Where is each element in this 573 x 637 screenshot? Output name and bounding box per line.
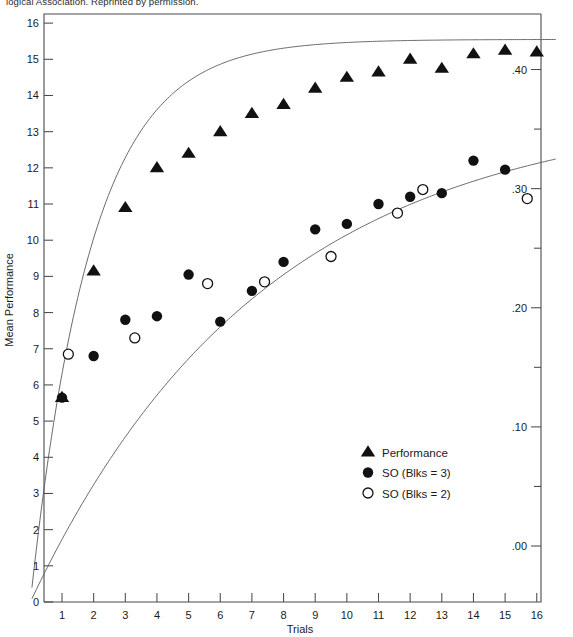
data-point-s1-3 bbox=[118, 201, 132, 212]
series-3-points bbox=[63, 185, 532, 360]
legend-marker-2 bbox=[363, 467, 373, 477]
axes-group bbox=[44, 14, 541, 602]
data-point-s3-8 bbox=[522, 194, 532, 204]
data-point-s2-8 bbox=[278, 257, 288, 267]
data-point-s1-9 bbox=[308, 82, 322, 93]
data-point-s2-15 bbox=[500, 164, 510, 174]
x-tick-label-6: 6 bbox=[217, 609, 223, 621]
y-tick-label-1: 1 bbox=[33, 560, 39, 572]
legend-label-3: SO (Blks = 2) bbox=[382, 488, 451, 500]
data-point-s2-11 bbox=[373, 199, 383, 209]
x-tick-label-5: 5 bbox=[186, 609, 192, 621]
y-tick-label-0: 0 bbox=[33, 596, 39, 608]
x-tick-label-14: 14 bbox=[467, 609, 479, 621]
fit-curves-group bbox=[32, 40, 556, 599]
y-tick-label-12: 12 bbox=[27, 162, 39, 174]
data-point-s2-14 bbox=[468, 155, 478, 165]
y2-tick-label-.30: .30 bbox=[512, 183, 527, 195]
data-point-s2-2 bbox=[88, 351, 98, 361]
chart-legend: PerformanceSO (Blks = 3)SO (Blks = 2) bbox=[361, 445, 451, 499]
x-tick-label-4: 4 bbox=[154, 609, 160, 621]
data-point-s3-7 bbox=[418, 185, 428, 195]
x-tick-label-2: 2 bbox=[91, 609, 97, 621]
data-point-s3-1 bbox=[63, 349, 73, 359]
data-point-s2-1 bbox=[57, 392, 67, 402]
y-tick-label-16: 16 bbox=[27, 17, 39, 29]
y-tick-label-7: 7 bbox=[33, 343, 39, 355]
data-point-s1-4 bbox=[150, 161, 164, 172]
y-tick-label-15: 15 bbox=[27, 53, 39, 65]
x-tick-label-3: 3 bbox=[122, 609, 128, 621]
data-point-s2-13 bbox=[437, 188, 447, 198]
series-2-points bbox=[57, 155, 511, 402]
x-tick-label-7: 7 bbox=[249, 609, 255, 621]
data-point-s1-5 bbox=[181, 147, 195, 158]
data-points-group bbox=[55, 44, 544, 403]
data-point-s1-15 bbox=[498, 44, 512, 55]
axis-labels-group: 0123456789101112131415161234567891011121… bbox=[3, 17, 543, 635]
data-point-s2-9 bbox=[310, 224, 320, 234]
y-tick-label-11: 11 bbox=[28, 198, 39, 210]
x-tick-label-13: 13 bbox=[436, 609, 448, 621]
x-tick-label-15: 15 bbox=[499, 609, 511, 621]
legend-marker-3 bbox=[363, 488, 373, 498]
chart-canvas: 0123456789101112131415161234567891011121… bbox=[0, 0, 573, 637]
y-tick-label-3: 3 bbox=[33, 487, 39, 499]
y2-tick-label-.00: .00 bbox=[512, 540, 527, 552]
data-point-s2-3 bbox=[120, 315, 130, 325]
data-point-s1-11 bbox=[371, 65, 385, 76]
data-point-s2-10 bbox=[342, 219, 352, 229]
y2-tick-label-.20: .20 bbox=[512, 302, 527, 314]
data-point-s2-6 bbox=[215, 316, 225, 326]
legend-label-1: Performance bbox=[382, 447, 448, 459]
y-tick-label-4: 4 bbox=[33, 451, 39, 463]
data-point-s1-7 bbox=[245, 107, 259, 118]
y-tick-label-14: 14 bbox=[27, 89, 39, 101]
x-tick-label-8: 8 bbox=[280, 609, 286, 621]
x-tick-label-16: 16 bbox=[531, 609, 543, 621]
plot-frame bbox=[44, 14, 541, 602]
data-point-s2-5 bbox=[183, 269, 193, 279]
data-point-s1-10 bbox=[340, 71, 354, 82]
legend-label-2: SO (Blks = 3) bbox=[382, 467, 451, 479]
y-tick-label-5: 5 bbox=[33, 415, 39, 427]
y2-tick-label-.40: .40 bbox=[512, 64, 527, 76]
data-point-s3-5 bbox=[326, 251, 336, 261]
data-point-s3-3 bbox=[203, 279, 213, 289]
data-point-s2-7 bbox=[247, 286, 257, 296]
data-point-s3-2 bbox=[130, 333, 140, 343]
data-point-s2-4 bbox=[152, 311, 162, 321]
data-point-s1-12 bbox=[403, 53, 417, 64]
data-point-s2-12 bbox=[405, 192, 415, 202]
y-tick-label-2: 2 bbox=[33, 524, 39, 536]
so-fit-curve bbox=[32, 159, 556, 599]
legend-marker-1 bbox=[361, 445, 375, 456]
data-point-s1-13 bbox=[435, 62, 449, 73]
y2-tick-label-.10: .10 bbox=[512, 421, 527, 433]
y-tick-label-9: 9 bbox=[33, 270, 39, 282]
performance-fit-curve bbox=[32, 40, 556, 588]
y-tick-label-10: 10 bbox=[27, 234, 39, 246]
y-tick-label-6: 6 bbox=[33, 379, 39, 391]
x-tick-label-12: 12 bbox=[404, 609, 416, 621]
y-axis-title: Mean Performance bbox=[3, 253, 15, 347]
x-tick-label-11: 11 bbox=[373, 609, 384, 621]
data-point-s3-4 bbox=[260, 277, 270, 287]
y-tick-label-8: 8 bbox=[33, 307, 39, 319]
data-point-s1-14 bbox=[466, 47, 480, 58]
data-point-s1-8 bbox=[276, 98, 290, 109]
x-axis-title: Trials bbox=[287, 623, 314, 635]
data-point-s1-16 bbox=[530, 45, 544, 56]
figure-container: logical Association. Reprinted by permis… bbox=[0, 0, 573, 637]
x-tick-label-10: 10 bbox=[341, 609, 353, 621]
data-point-s1-6 bbox=[213, 125, 227, 136]
y-tick-label-13: 13 bbox=[27, 126, 39, 138]
x-tick-label-1: 1 bbox=[59, 609, 65, 621]
data-point-s3-6 bbox=[392, 208, 402, 218]
data-point-s1-2 bbox=[86, 264, 100, 275]
x-tick-label-9: 9 bbox=[312, 609, 318, 621]
series-1-points bbox=[55, 44, 544, 403]
